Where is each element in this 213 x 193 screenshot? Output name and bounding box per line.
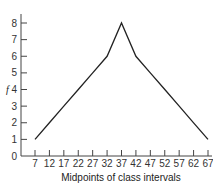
frequency-polygon-line <box>35 23 208 139</box>
x-tick-label: 62 <box>188 158 200 169</box>
x-tick-label: 57 <box>174 158 186 169</box>
x-tick-label: 67 <box>202 158 213 169</box>
y-tick-label: 3 <box>11 101 17 112</box>
x-axis-label: Midpoints of class intervals <box>61 172 181 183</box>
x-tick-label: 32 <box>102 158 114 169</box>
x-tick-label: 37 <box>116 158 128 169</box>
y-axis-label: f <box>6 84 10 95</box>
x-tick-label: 27 <box>87 158 99 169</box>
x-tick-label: 47 <box>145 158 157 169</box>
frequency-polygon-chart: 012345678 7121722273237424752576267 f Mi… <box>0 0 213 193</box>
y-axis: 012345678 <box>11 14 27 162</box>
x-tick-label: 22 <box>73 158 85 169</box>
y-tick-label: 8 <box>11 18 17 29</box>
x-tick-label: 12 <box>44 158 56 169</box>
y-tick-label: 2 <box>11 117 17 128</box>
x-tick-label: 52 <box>159 158 171 169</box>
x-axis: 7121722273237424752576267 <box>21 150 213 169</box>
y-tick-label: 7 <box>11 34 17 45</box>
x-tick-label: 17 <box>58 158 70 169</box>
y-tick-label: 4 <box>11 84 17 95</box>
x-tick-label: 7 <box>32 158 38 169</box>
y-tick-label: 6 <box>11 51 17 62</box>
y-tick-label: 0 <box>11 151 17 162</box>
y-tick-label: 1 <box>11 134 17 145</box>
x-tick-label: 42 <box>130 158 142 169</box>
y-tick-label: 5 <box>11 67 17 78</box>
